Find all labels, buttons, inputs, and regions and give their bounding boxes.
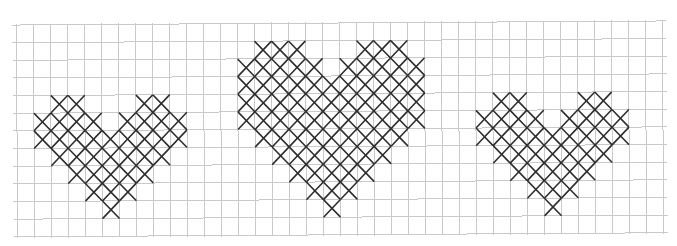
- cross-stitch-icon: [272, 112, 288, 129]
- cross-stitch-icon: [120, 148, 136, 165]
- cross-stitch-icon: [528, 163, 544, 180]
- cross-stitch-icon: [85, 113, 101, 130]
- cross-stitch-icon: [171, 130, 187, 147]
- cross-stitch-icon: [374, 94, 390, 111]
- cross-stitch-icon: [374, 111, 390, 128]
- cross-stitch-icon: [51, 96, 67, 113]
- cross-stitch-icon: [306, 59, 322, 76]
- cross-stitch-icon: [511, 164, 527, 181]
- cross-stitch-icon: [527, 110, 543, 127]
- cross-stitch-icon: [103, 131, 119, 148]
- cross-stitch-icon: [341, 147, 357, 164]
- cross-stitch-icon: [340, 94, 356, 111]
- cross-stitch-icon: [579, 145, 595, 162]
- cross-stitch-icon: [272, 59, 288, 76]
- cross-stitch-icon: [341, 182, 357, 199]
- cross-stitch-icon: [103, 201, 119, 218]
- cross-stitch-icon: [357, 94, 373, 111]
- cross-stitch-icon: [391, 111, 407, 128]
- cross-stitch-chart: Cross-stitch heart patterns: [0, 0, 677, 246]
- cross-stitch-icon: [255, 42, 271, 59]
- cross-stitch-icon: [51, 113, 67, 130]
- cross-stitch-icon: [324, 200, 340, 217]
- cross-stitch-icon: [290, 130, 306, 147]
- cross-stitch-icon: [306, 112, 322, 129]
- cross-stitch-icon: [596, 145, 612, 162]
- cross-stitch-icon: [391, 41, 407, 58]
- cross-stitch-icon: [340, 59, 356, 76]
- cross-stitch-icon: [545, 199, 561, 216]
- cross-stitch-icon: [68, 96, 84, 113]
- cross-stitch-icon: [323, 76, 339, 93]
- cross-stitch-icon: [612, 110, 628, 127]
- cross-stitch-icon: [341, 165, 357, 182]
- cross-stitch-icon: [35, 131, 51, 148]
- cross-stitch-icon: [595, 92, 611, 109]
- cross-stitch-icon: [578, 110, 594, 127]
- cross-stitch-icon: [255, 95, 271, 112]
- cross-stitch-icon: [408, 58, 424, 75]
- cross-stitch-icon: [408, 76, 424, 93]
- cross-stitch-icon: [494, 146, 510, 163]
- cross-stitch-icon: [578, 93, 594, 110]
- cross-stitch-icon: [120, 131, 136, 148]
- cross-stitch-icon: [595, 110, 611, 127]
- cross-stitch-icon: [527, 128, 543, 145]
- cross-stitch-icon: [375, 129, 391, 146]
- cross-stitch-icon: [324, 129, 340, 146]
- cross-stitch-icon: [340, 112, 356, 129]
- cross-stitch-icon: [477, 128, 493, 145]
- cross-stitch-icon: [86, 184, 102, 201]
- cross-stitch-icon: [545, 146, 561, 163]
- cross-stitch-icon: [69, 166, 85, 183]
- cross-stitch-icon: [153, 113, 169, 130]
- cross-stitch-icon: [255, 59, 271, 76]
- cross-stitch-icon: [561, 128, 577, 145]
- cross-stitch-icon: [136, 113, 152, 130]
- cross-stitch-icon: [137, 166, 153, 183]
- cross-stitch-icon: [307, 130, 323, 147]
- cross-stitch-icon: [289, 41, 305, 58]
- cross-stitch-icon: [120, 184, 136, 201]
- cross-stitch-icon: [357, 41, 373, 58]
- cross-stitch-icon: [579, 163, 595, 180]
- cross-stitch-icon: [528, 181, 544, 198]
- cross-stitch-icon: [324, 147, 340, 164]
- cross-stitch-icon: [290, 165, 306, 182]
- cross-stitch-icon: [358, 129, 374, 146]
- cross-stitch-icon: [137, 131, 153, 148]
- cross-stitch-icon: [68, 113, 84, 130]
- cross-stitch-icon: [86, 166, 102, 183]
- cross-stitch-icon: [510, 93, 526, 110]
- cross-stitch-icon: [307, 147, 323, 164]
- cross-stitch-icon: [289, 59, 305, 76]
- cross-stitch-icon: [255, 112, 271, 129]
- cross-stitch-icon: [476, 111, 492, 128]
- cross-stitch-icon: [357, 76, 373, 93]
- cross-stitch-icon: [69, 149, 85, 166]
- cross-stitch-icon: [358, 147, 374, 164]
- cross-stitch-icon: [374, 41, 390, 58]
- cross-stitch-icon: [238, 112, 254, 129]
- cross-stitch-icon: [52, 149, 68, 166]
- cross-stitch-icon: [341, 129, 357, 146]
- cross-stitch-icon: [392, 129, 408, 146]
- cross-stitch-icon: [289, 112, 305, 129]
- cross-stitch-icon: [238, 59, 254, 76]
- cross-stitch-icon: [170, 113, 186, 130]
- cross-stitch-icon: [290, 147, 306, 164]
- cross-stitch-icon: [612, 128, 628, 145]
- cross-stitch-icon: [154, 148, 170, 165]
- cross-stitch-icon: [324, 182, 340, 199]
- cross-stitch-icon: [69, 131, 85, 148]
- cross-stitch-icon: [494, 128, 510, 145]
- cross-stitch-icon: [324, 165, 340, 182]
- cross-stitch-icon: [136, 95, 152, 112]
- small-heart-left: [34, 95, 187, 219]
- cross-stitch-icon: [86, 131, 102, 148]
- cross-stitch-icon: [374, 76, 390, 93]
- cross-stitch-icon: [86, 149, 102, 166]
- cross-stitch-icon: [120, 166, 136, 183]
- cross-stitch-icon: [408, 94, 424, 111]
- cross-stitch-icon: [357, 59, 373, 76]
